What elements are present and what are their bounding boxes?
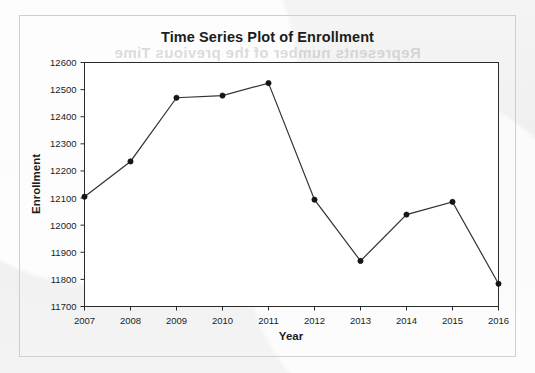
- plot-svg: 1170011800119001200012100122001230012400…: [0, 0, 535, 373]
- x-tick-label: 2016: [488, 315, 509, 326]
- x-tick-label: 2011: [258, 315, 278, 326]
- y-tick-label: 11700: [51, 301, 77, 312]
- y-axis-ticks: 1170011800119001200012100122001230012400…: [50, 57, 84, 312]
- plot-frame: [85, 63, 499, 307]
- y-tick-label: 12200: [50, 165, 76, 176]
- data-point: [220, 93, 225, 98]
- y-tick-label: 12400: [50, 111, 76, 122]
- x-tick-label: 2010: [212, 315, 233, 326]
- y-tick-label: 12300: [50, 138, 76, 149]
- y-tick-label: 11800: [51, 274, 77, 285]
- x-tick-label: 2012: [304, 315, 325, 326]
- y-tick-label: 12000: [50, 220, 76, 231]
- data-point: [496, 281, 501, 286]
- y-axis-label: Enrollment: [30, 154, 42, 214]
- x-tick-label: 2014: [396, 315, 417, 326]
- data-point: [174, 95, 179, 100]
- y-tick-label: 12500: [50, 84, 76, 95]
- x-tick-label: 2015: [442, 315, 463, 326]
- data-point: [128, 159, 133, 164]
- x-axis-label: Year: [279, 330, 304, 342]
- x-tick-label: 2007: [74, 315, 95, 326]
- x-axis-ticks: 2007200820092010201120122013201420152016: [74, 307, 509, 326]
- data-point: [358, 258, 363, 263]
- data-point: [266, 81, 271, 86]
- data-point: [404, 212, 409, 217]
- y-tick-label: 11900: [51, 247, 77, 258]
- time-series-plot: 1170011800119001200012100122001230012400…: [0, 0, 535, 373]
- x-tick-label: 2009: [166, 315, 187, 326]
- y-tick-label: 12100: [50, 193, 76, 204]
- x-tick-label: 2013: [350, 315, 371, 326]
- data-point: [450, 199, 455, 204]
- data-point: [312, 197, 317, 202]
- y-tick-label: 12600: [50, 57, 76, 68]
- data-point: [82, 194, 87, 199]
- x-tick-label: 2008: [120, 315, 141, 326]
